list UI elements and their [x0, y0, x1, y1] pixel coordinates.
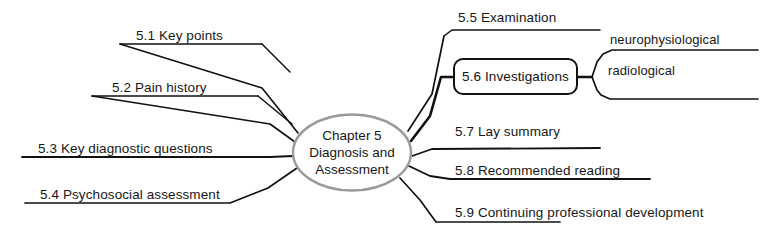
mind-map-diagram: Chapter 5 Diagnosis and Assessment 5.1 K…	[0, 0, 760, 247]
center-node: Chapter 5 Diagnosis and Assessment	[292, 114, 412, 191]
branch-label-5-4-text: 5.4 Psychosocial assessment	[40, 187, 220, 203]
branch-label-5-1: 5.1 Key points	[136, 28, 223, 44]
center-node-line-3: Assessment	[315, 161, 389, 178]
branch-line-5-2	[92, 96, 295, 142]
branch-underline-5-5	[444, 30, 600, 36]
branch-label-5-5: 5.5 Examination	[458, 10, 556, 26]
branch-label-5-6: 5.6 Investigations	[462, 69, 569, 84]
branch-diag-5-1	[262, 44, 290, 72]
branch-diag-5-2	[258, 96, 292, 124]
sub-branch-line-radiological	[592, 77, 758, 99]
branch-label-5-3: 5.3 Key diagnostic questions	[38, 141, 213, 157]
branch-line-5-7	[412, 148, 600, 156]
branch-label-5-2: 5.2 Pain history	[112, 80, 207, 96]
sub-branch-label-radiological: radiological	[608, 64, 675, 79]
branch-line-5-6	[411, 77, 453, 141]
center-node-line-1: Chapter 5	[322, 127, 381, 144]
center-node-line-2: Diagnosis and	[309, 144, 395, 161]
branch-label-5-9: 5.9 Continuing professional development	[455, 205, 704, 221]
branch-label-5-7: 5.7 Lay summary	[455, 124, 560, 140]
sub-branch-label-neurophysiological: neurophysiological	[610, 33, 719, 48]
branch-label-5-8: 5.8 Recommended reading	[455, 163, 620, 179]
branch-node-5-6[interactable]: 5.6 Investigations	[453, 58, 578, 95]
